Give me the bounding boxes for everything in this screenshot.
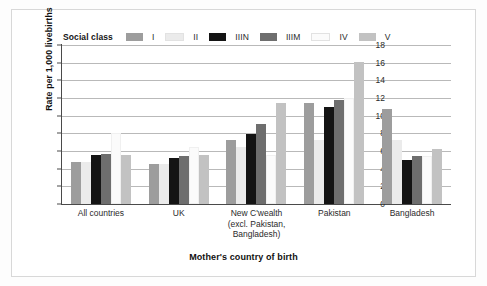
legend-swatch-II	[165, 33, 184, 41]
bar-V[interactable]	[276, 103, 286, 204]
bar-group	[62, 45, 140, 204]
bar-I[interactable]	[226, 140, 236, 204]
bar-IIIM[interactable]	[101, 154, 111, 204]
plot-area: 024681012141618	[62, 45, 451, 204]
legend-swatch-IIIM	[260, 33, 277, 41]
bar-V[interactable]	[432, 149, 442, 204]
bar-V[interactable]	[354, 62, 364, 204]
bar-I[interactable]	[304, 103, 314, 204]
x-tick-label: Pakistan	[295, 208, 373, 240]
x-tick-label: New C'wealth(excl. Pakistan,Bangladesh)	[218, 208, 296, 240]
bar-V[interactable]	[199, 155, 209, 204]
bar-IIIN[interactable]	[324, 107, 334, 204]
legend-label-V: V	[385, 32, 391, 42]
x-tick-label-line: (excl. Pakistan,	[218, 219, 296, 230]
x-tick-label-line: Pakistan	[318, 208, 351, 218]
bar-IIIN[interactable]	[91, 155, 101, 204]
bar-IV[interactable]	[266, 155, 276, 204]
bar-IIIN[interactable]	[246, 134, 256, 204]
legend-swatch-IV	[311, 33, 330, 41]
x-axis-tick-labels: All countriesUKNew C'wealth(excl. Pakist…	[62, 208, 451, 240]
bar-II[interactable]	[236, 147, 246, 204]
x-tick-label: UK	[140, 208, 218, 240]
legend-label-IV: IV	[339, 32, 347, 42]
x-tick-label-line: Bangladesh	[390, 208, 435, 218]
bar-IIIN[interactable]	[402, 160, 412, 204]
legend-entry-IIIN: IIIN	[209, 32, 249, 42]
x-tick-label-line: All countries	[78, 208, 124, 218]
bar-V[interactable]	[121, 155, 131, 204]
bars-layer	[62, 45, 451, 204]
bar-IV[interactable]	[111, 133, 121, 204]
legend-label-I: I	[152, 32, 154, 42]
bar-I[interactable]	[149, 164, 159, 204]
bar-IV[interactable]	[189, 147, 199, 204]
chart-figure: Social class I II IIIN IIIM IV V Rate pe…	[0, 0, 487, 286]
legend-swatch-V	[359, 33, 376, 41]
bar-IIIN[interactable]	[169, 158, 179, 204]
x-tick-label-line: UK	[173, 208, 185, 218]
legend-entry-II: II	[165, 32, 198, 42]
bar-group	[140, 45, 218, 204]
x-tick-label-line: Bangladesh)	[218, 229, 296, 240]
x-tick-label-line: New C'wealth	[231, 208, 283, 218]
bar-IV[interactable]	[344, 98, 354, 204]
bar-group	[218, 45, 296, 204]
x-axis-title: Mother's country of birth	[0, 252, 487, 262]
bar-I[interactable]	[382, 109, 392, 204]
legend-entry-IV: IV	[311, 32, 347, 42]
legend-entry-IIIM: IIIM	[260, 32, 301, 42]
legend-title: Social class	[63, 32, 113, 42]
legend-entry-I: I	[126, 32, 154, 42]
x-tick-label: Bangladesh	[373, 208, 451, 240]
bar-II[interactable]	[81, 162, 91, 204]
legend-label-II: II	[193, 32, 198, 42]
bar-group	[373, 45, 451, 204]
bar-II[interactable]	[314, 140, 324, 204]
bar-IIIM[interactable]	[179, 156, 189, 204]
x-tick-label: All countries	[62, 208, 140, 240]
legend-entry-V: V	[359, 32, 391, 42]
bar-IV[interactable]	[422, 156, 432, 204]
legend-swatch-IIIN	[209, 33, 226, 41]
y-axis-title: Rate per 1,000 livebirths	[44, 0, 54, 139]
legend-label-IIIM: IIIM	[286, 32, 301, 42]
legend-swatch-I	[126, 33, 143, 41]
x-axis-line	[61, 204, 451, 205]
bar-II[interactable]	[392, 140, 402, 204]
bar-IIIM[interactable]	[334, 100, 344, 204]
bar-IIIM[interactable]	[256, 124, 266, 204]
bar-group	[295, 45, 373, 204]
bar-II[interactable]	[159, 164, 169, 204]
legend-label-IIIN: IIIN	[235, 32, 249, 42]
chart-legend: Social class I II IIIN IIIM IV V	[63, 30, 402, 43]
bar-IIIM[interactable]	[412, 156, 422, 204]
bar-I[interactable]	[71, 162, 81, 204]
